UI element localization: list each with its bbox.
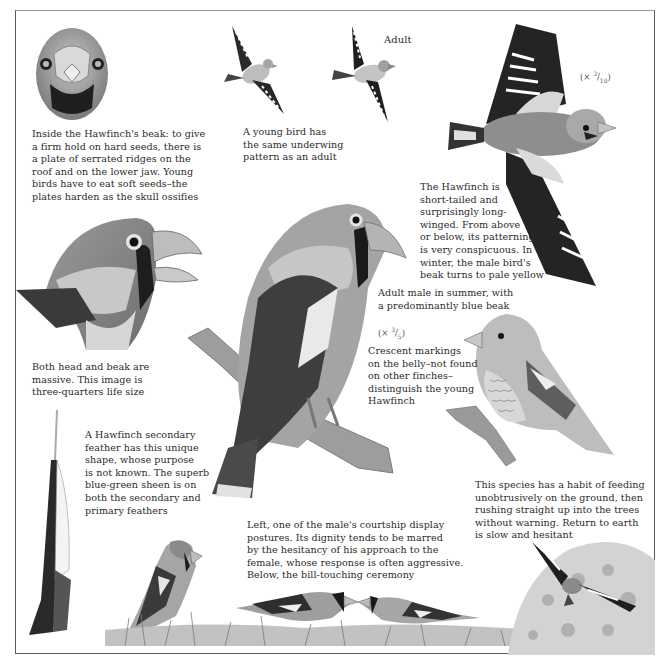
perched-scale-label: (× 3/5) bbox=[378, 326, 405, 340]
flight-scale-label: (× 3/10) bbox=[580, 70, 611, 84]
caption-beak-inside: Inside the Hawfinch's beak: to give a fi… bbox=[32, 128, 205, 204]
caption-young-underwing: A young bird has the same underwing patt… bbox=[243, 126, 344, 164]
beak-front-view-illustration bbox=[32, 24, 112, 124]
adult-label: Adult bbox=[384, 34, 412, 47]
bill-touching-pair-illustration bbox=[232, 584, 484, 634]
caption-courtship: Left, one of the male's courtship displa… bbox=[247, 519, 463, 582]
caption-adult-male: Adult male in summer, with a predominant… bbox=[378, 287, 513, 312]
caption-head-beak: Both head and beak are massive. This ima… bbox=[32, 361, 149, 399]
caption-short-tailed: The Hawfinch is short-tailed and surpris… bbox=[420, 181, 544, 282]
head-three-quarter-illustration bbox=[16, 210, 206, 355]
secondary-feather-illustration bbox=[25, 410, 85, 640]
caption-feeding: This species has a habit of feeding unob… bbox=[475, 479, 645, 542]
caption-crescent: Crescent markings on the belly–not found… bbox=[368, 345, 478, 408]
caption-feather: A Hawfinch secondary feather has this un… bbox=[85, 429, 209, 517]
young-bird-underwing-illustration bbox=[222, 24, 292, 119]
